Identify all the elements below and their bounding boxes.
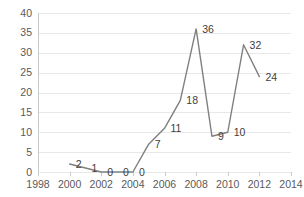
chart-canvas: 0510152025303540199820002002200420062008…	[0, 0, 304, 197]
y-axis-tick-label: 20	[20, 86, 32, 98]
data-point-label: 2	[76, 158, 82, 170]
data-point-label: 10	[234, 126, 246, 138]
y-axis-tick-label: 30	[20, 46, 32, 58]
data-point-label: 0	[107, 166, 113, 178]
y-axis-tick-label: 15	[20, 106, 32, 118]
x-axis-tick-label: 2000	[58, 178, 82, 190]
x-axis-tick-label: 2004	[121, 178, 145, 190]
series-line-series-1	[70, 29, 260, 172]
x-axis-tick-label: 2006	[153, 178, 177, 190]
y-axis-tick-label: 25	[20, 66, 32, 78]
data-point-label: 7	[155, 138, 161, 150]
x-axis-tick-label: 2010	[216, 178, 240, 190]
y-axis-tick-label: 0	[26, 166, 32, 178]
x-axis-tick-label: 2014	[279, 178, 303, 190]
y-axis-tick-label: 5	[26, 146, 32, 158]
line-chart: 0510152025303540199820002002200420062008…	[0, 0, 304, 197]
y-axis-tick-label: 10	[20, 126, 32, 138]
data-point-label: 0	[123, 166, 129, 178]
x-axis-tick-label: 2012	[248, 178, 272, 190]
x-axis-tick-label: 1998	[26, 178, 50, 190]
data-point-label: 18	[186, 94, 198, 106]
data-point-label: 9	[218, 130, 224, 142]
data-point-label: 11	[171, 122, 182, 134]
data-point-label: 24	[265, 71, 277, 83]
x-axis-tick-label: 2002	[90, 178, 114, 190]
y-axis-tick-label: 40	[20, 7, 32, 19]
data-point-label: 1	[91, 162, 97, 174]
data-point-label: 32	[250, 39, 262, 51]
x-axis-tick-label: 2008	[184, 178, 208, 190]
data-point-label: 36	[202, 23, 214, 35]
y-axis-tick-label: 35	[20, 26, 32, 38]
data-point-label: 0	[139, 166, 145, 178]
